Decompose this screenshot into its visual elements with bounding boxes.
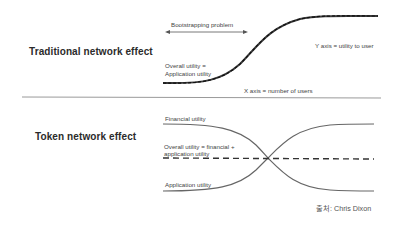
source-credit: 출처: Chris Dixon [316, 203, 371, 213]
y-axis-label: Y axis = utility to user [315, 42, 374, 50]
overall-utility-dashed-line [163, 158, 374, 159]
financial-utility-label: Financial utility [165, 115, 206, 123]
curve-label-line1: Overall utility = [165, 62, 206, 70]
traditional-title: Traditional network effect [29, 46, 153, 57]
arrow-right-head-icon [243, 30, 248, 34]
token-title: Token network effect [35, 131, 136, 142]
curve-label-line2: Application utility [165, 70, 211, 78]
application-utility-label: Application utility [165, 181, 211, 189]
overall-utility-label-line2: application utility [164, 150, 209, 158]
arrow-left-head-icon [165, 30, 170, 34]
bootstrapping-label: Bootstrapping problem [171, 21, 233, 29]
section-divider [22, 97, 381, 98]
x-axis-label: X axis = number of users [244, 87, 313, 95]
